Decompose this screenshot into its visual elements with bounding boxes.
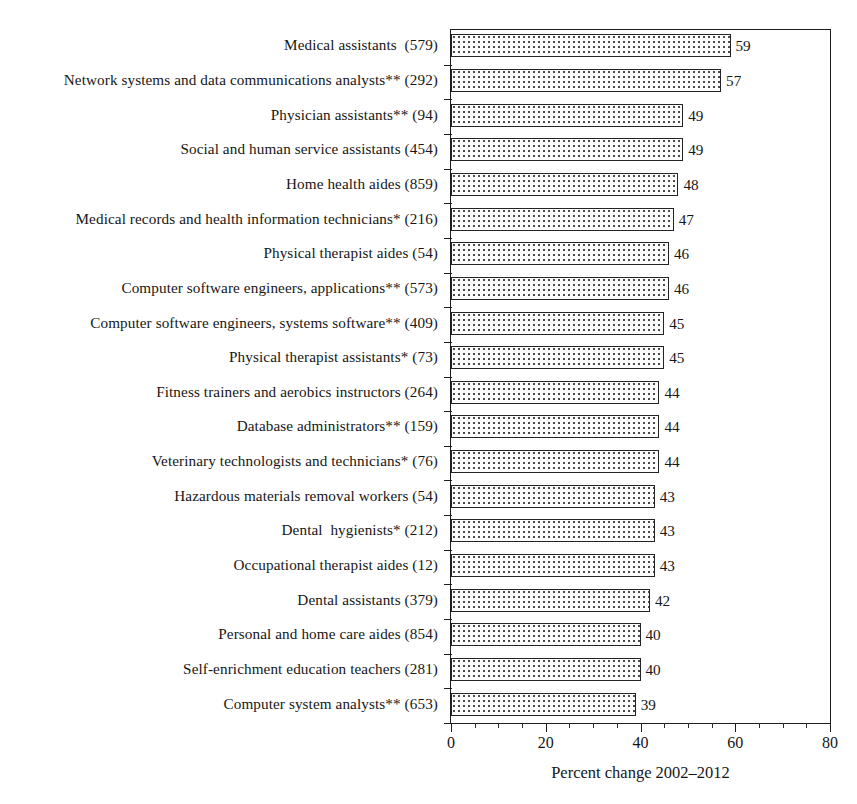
y-axis-tick [444,377,452,378]
bar [451,589,650,612]
category-label: Medical assistants (579) [284,37,438,52]
x-axis-minor-tick [688,723,689,728]
bar [451,69,721,92]
y-axis-tick [444,480,452,481]
bar-value-label: 43 [660,558,675,573]
bar [451,173,678,196]
bar [451,415,659,438]
x-axis-tick-label: 80 [822,735,838,751]
category-label: Hazardous materials removal workers (54) [174,488,438,503]
x-axis-tick-label: 40 [633,735,649,751]
bar [451,554,655,577]
x-axis-tick-label: 0 [447,735,455,751]
category-label: Network systems and data communications … [64,72,438,87]
bar-value-label: 39 [641,697,656,712]
category-label: Dental assistants (379) [297,592,438,607]
x-axis-tick-label: 60 [727,735,743,751]
bar-value-label: 44 [664,385,679,400]
y-axis-tick [444,99,452,100]
category-label: Database administrators** (159) [237,418,438,433]
bar [451,312,664,335]
category-label: Computer software engineers, systems sof… [90,315,438,330]
x-axis-minor-tick [593,723,594,728]
category-label: Physician assistants** (94) [271,107,438,122]
bar [451,658,641,681]
bar [451,519,655,542]
category-label: Computer system analysts** (653) [223,696,438,711]
x-axis-tick-label: 20 [538,735,554,751]
category-label: Dental hygienists* (212) [282,522,438,537]
bar [451,277,669,300]
category-label: Social and human service assistants (454… [180,141,438,156]
bar-value-label: 43 [660,523,675,538]
y-axis-tick [444,65,452,66]
y-axis-tick [444,238,452,239]
bar [451,485,655,508]
category-label: Self-enrichment education teachers (281) [183,661,438,676]
x-axis-minor-tick [569,723,570,728]
bar [451,693,636,716]
bar [451,346,664,369]
x-axis-minor-tick [712,723,713,728]
y-axis-tick [444,584,452,585]
bar-value-label: 40 [646,627,661,642]
bar-value-label: 40 [646,662,661,677]
bar-value-label: 44 [664,454,679,469]
x-axis-minor-tick [664,723,665,728]
bar-value-label: 46 [674,246,689,261]
bar [451,242,669,265]
x-axis-tick [735,723,736,732]
y-axis-tick [444,307,452,308]
x-axis-minor-tick [783,723,784,728]
bar-value-label: 49 [688,108,703,123]
category-label: Fitness trainers and aerobics instructor… [156,384,438,399]
bar [451,138,683,161]
y-axis-tick [444,273,452,274]
x-axis-tick [641,723,642,732]
y-axis-tick [444,619,452,620]
bar-chart: Medical assistants (579)Network systems … [0,0,857,804]
y-axis-tick [444,169,452,170]
category-label: Occupational therapist aides (12) [234,557,438,572]
x-axis-tick [546,723,547,732]
bar [451,623,641,646]
bar-value-label: 59 [736,38,751,53]
y-axis-tick [444,688,452,689]
bar-value-label: 46 [674,281,689,296]
y-axis-tick [444,342,452,343]
y-axis-tick [444,654,452,655]
bar [451,34,731,57]
bar-value-label: 48 [683,177,698,192]
bar [451,208,674,231]
bar-value-label: 44 [664,419,679,434]
category-label: Veterinary technologists and technicians… [152,453,438,468]
x-axis-tick [830,723,831,732]
bar-value-label: 47 [679,212,694,227]
y-axis-tick [444,446,452,447]
bar-value-label: 42 [655,593,670,608]
y-axis-tick [444,515,452,516]
category-label: Personal and home care aides (854) [218,626,438,641]
bar [451,381,659,404]
y-axis-tick [444,203,452,204]
x-axis-minor-tick [522,723,523,728]
plot-area: 5957494948474646454544444443434342404039… [450,29,831,724]
category-label: Physical therapist assistants* (73) [229,349,438,364]
category-label: Computer software engineers, application… [121,280,438,295]
y-axis-tick [444,550,452,551]
x-axis-tick [451,723,452,732]
y-axis-tick [444,411,452,412]
bar [451,450,659,473]
x-axis-minor-tick [498,723,499,728]
y-axis-tick [444,134,452,135]
bar-value-label: 49 [688,142,703,157]
bar [451,104,683,127]
category-label: Medical records and health information t… [76,211,438,226]
x-axis-minor-tick [475,723,476,728]
x-axis-minor-tick [617,723,618,728]
bar-value-label: 45 [669,350,684,365]
bar-value-label: 57 [726,73,741,88]
x-axis-title: Percent change 2002–2012 [450,765,831,782]
x-axis-minor-tick [806,723,807,728]
category-label-column: Medical assistants (579)Network systems … [0,29,444,722]
